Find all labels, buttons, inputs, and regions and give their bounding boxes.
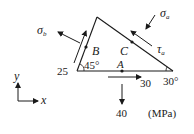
- label-angle-left: 45°: [84, 59, 99, 71]
- label-tau-a: τa: [157, 42, 165, 57]
- stress-diagram: B C A 45° 30° 25 30 40 (MPa) σb σa τa y …: [0, 0, 194, 134]
- label-point-c: C: [120, 44, 129, 58]
- coordinate-axes: [18, 83, 38, 101]
- label-sigma-b: σb: [37, 23, 47, 38]
- label-angle-right: 30°: [163, 75, 178, 87]
- label-axis-y: y: [13, 69, 20, 83]
- label-point-a: A: [116, 58, 124, 70]
- angle-arc-right: [166, 67, 167, 71]
- point-b-dot: [84, 45, 87, 48]
- label-units: (MPa): [148, 107, 176, 120]
- label-axis-x: x: [40, 93, 47, 107]
- label-point-b: B: [92, 44, 100, 58]
- sigma-a-arrow: [146, 15, 155, 29]
- label-bottom-normal: 40: [116, 107, 128, 119]
- sigma-b-arrow: [58, 32, 80, 43]
- label-left-shear: 25: [57, 65, 69, 77]
- label-bottom-shear: 30: [140, 77, 152, 89]
- point-c-dot: [130, 40, 133, 43]
- label-sigma-a: σa: [160, 6, 170, 21]
